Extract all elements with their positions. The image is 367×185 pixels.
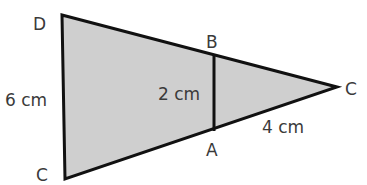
measure-ab: 2 cm: [158, 84, 200, 104]
vertex-label-a: A: [206, 140, 218, 160]
measure-dc: 6 cm: [5, 90, 47, 110]
vertex-label-c-bottom: C: [36, 165, 48, 185]
vertex-label-c-apex: C: [345, 79, 357, 99]
measure-ac: 4 cm: [262, 117, 304, 137]
vertex-label-b: B: [206, 32, 218, 52]
triangle-diagram: D C B A C 6 cm 2 cm 4 cm: [0, 0, 367, 185]
vertex-label-d: D: [33, 14, 46, 34]
